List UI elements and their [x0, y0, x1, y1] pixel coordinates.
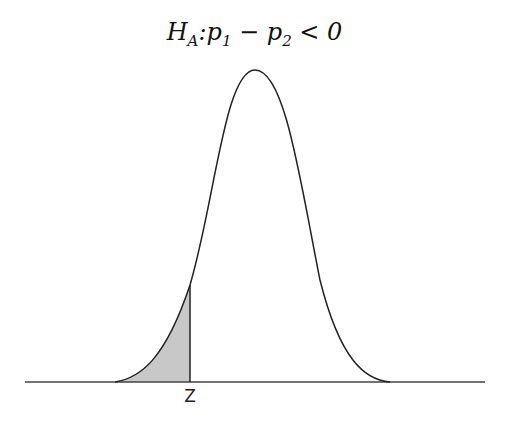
bell-curve [115, 70, 390, 382]
normal-curve-diagram: Z [0, 0, 509, 426]
shaded-tail-region [115, 285, 190, 382]
z-label: Z [184, 386, 196, 406]
